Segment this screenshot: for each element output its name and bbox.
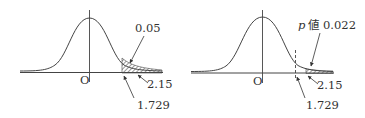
area-arrow	[130, 36, 144, 63]
left-figure: O 0.05 2.15 1.729	[20, 10, 173, 112]
p-value-text: 値 0.022	[308, 18, 356, 32]
critical-value-arrow	[124, 76, 134, 98]
area-label: 0.05	[135, 21, 161, 35]
p-value-arrow	[311, 33, 320, 66]
origin-label: O	[80, 73, 89, 87]
critical-value-arrow	[297, 77, 305, 98]
t-distribution-diagrams: O 0.05 2.15 1.729 O p値 0.022 2.15 1.729	[0, 0, 365, 118]
origin-label: O	[253, 74, 262, 88]
critical-value-label: 1.729	[137, 98, 170, 112]
p-symbol: p	[298, 18, 306, 32]
test-statistic-label: 2.15	[317, 78, 343, 92]
p-value-label: p値 0.022	[298, 18, 356, 32]
right-figure: O p値 0.022 2.15 1.729	[191, 10, 356, 112]
test-statistic-label: 2.15	[147, 77, 173, 91]
critical-value-label: 1.729	[306, 98, 339, 112]
